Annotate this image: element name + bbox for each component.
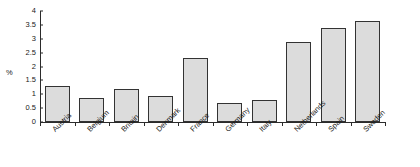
y-tick-label: 3: [0, 35, 40, 43]
plot-area: [40, 11, 385, 122]
y-tick-label: 2.5: [0, 49, 40, 57]
x-tick-mark: [109, 122, 110, 126]
x-tick-mark: [213, 122, 214, 126]
x-tick-mark: [247, 122, 248, 126]
x-tick-mark: [178, 122, 179, 126]
y-tick-label: 3.5: [0, 21, 40, 29]
y-tick-label: 1: [0, 91, 40, 99]
y-tick-label: 0: [0, 118, 40, 126]
y-tick-label: 0.5: [0, 104, 40, 112]
x-tick-mark: [385, 122, 386, 126]
y-tick-label: 2: [0, 63, 40, 71]
x-tick-mark: [282, 122, 283, 126]
x-tick-mark: [75, 122, 76, 126]
y-tick-label: 1.5: [0, 77, 40, 85]
bar: [355, 21, 380, 122]
x-tick-mark: [144, 122, 145, 126]
bar: [286, 42, 311, 122]
bar-chart: % 00.511.522.533.54 AustriaBelgiumBritai…: [0, 0, 420, 167]
y-tick-label: 4: [0, 7, 40, 15]
x-tick-mark: [316, 122, 317, 126]
x-tick-mark: [351, 122, 352, 126]
bar: [321, 28, 346, 122]
x-tick-mark: [40, 122, 41, 126]
